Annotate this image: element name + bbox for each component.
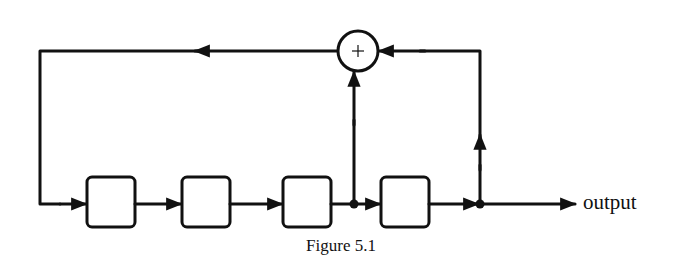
register-1 xyxy=(87,177,135,227)
tap-junction-2 xyxy=(476,200,485,209)
tap-junction-1 xyxy=(350,200,359,209)
output-label: output xyxy=(583,190,637,215)
feedback-path xyxy=(40,51,338,204)
register-2 xyxy=(182,177,230,227)
lfsr-diagram xyxy=(0,0,682,273)
register-4 xyxy=(381,177,429,227)
figure-caption: Figure 5.1 xyxy=(0,236,682,256)
register-3 xyxy=(283,177,331,227)
